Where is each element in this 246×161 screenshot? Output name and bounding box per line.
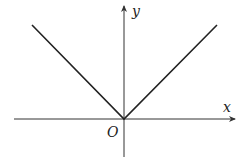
origin-label: O (107, 124, 119, 140)
x-axis-label: x (223, 99, 231, 115)
y-axis-label: y (131, 3, 141, 19)
graph-canvas: y x O (0, 0, 246, 161)
